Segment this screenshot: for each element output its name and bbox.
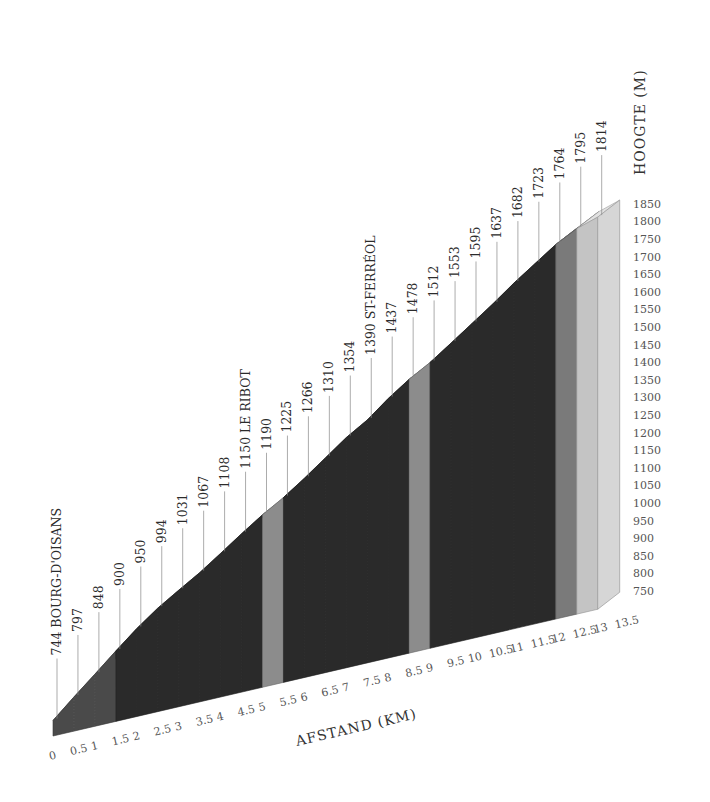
elevation-label: 1814 [594,120,609,152]
elevation-label: 1266 [300,381,315,413]
x-tick-label: 3 [173,719,183,733]
x-tick-label: 8.5 [404,663,424,680]
y-tick-label: 1150 [633,444,661,457]
elevation-label: 1354 [342,341,357,373]
x-tick-label: 13.5 [613,613,640,631]
x-tick-label: 2 [132,729,142,743]
elevation-label: 1390 ST-FERRÉOL [363,235,378,355]
y-tick-label: 1000 [633,497,661,510]
elevation-label: 994 [154,519,169,543]
elevation-label: 1031 [175,493,190,525]
y-tick-label: 1650 [633,268,661,281]
x-tick-label: 6.5 [320,683,340,700]
elevation-label: 950 [133,540,148,564]
elevation-label: 1795 [573,132,588,164]
x-tick-label: 5.5 [278,693,298,710]
x-tick-label: 3.5 [194,712,214,729]
elevation-label: 744 BOURG-D'OISANS [49,508,64,656]
end-side-face [598,200,620,609]
y-tick-label: 850 [633,550,654,563]
y-tick-label: 1700 [633,251,661,264]
elevation-label: 1637 [489,207,504,239]
x-tick-label: 1.5 [111,732,131,749]
x-axis-title: AFSTAND (KM) [293,705,418,749]
elevation-label: 1478 [405,282,420,314]
elevation-label: 1595 [468,227,483,259]
y-tick-label: 950 [633,515,654,528]
x-tick-label: 4 [215,710,225,724]
elevation-label: 1067 [196,476,211,508]
y-axis-title: HOOGTE (M) [632,69,648,175]
x-tick-label: 6 [299,690,309,704]
elevation-label: 797 [70,608,85,632]
x-tick-label: 4.5 [236,702,256,719]
elevation-label: 1764 [552,148,567,180]
elevation-label: 1150 LE RIBOT [238,369,253,469]
segment-front-face [430,244,556,648]
y-tick-label: 1450 [633,339,661,352]
y-tick-label: 800 [633,567,654,580]
elevation-label: 1682 [510,186,525,218]
x-tick-label: 1 [90,739,100,753]
x-tick-label: 9 [425,661,435,675]
y-tick-label: 1500 [633,321,661,334]
x-tick-label: 11 [509,640,526,656]
y-tick-label: 900 [633,532,654,545]
y-tick-label: 1100 [633,462,661,475]
y-tick-label: 1800 [633,215,661,228]
elevation-label: 1108 [217,457,232,489]
segment-front-face [53,651,116,736]
x-tick-label: 13 [592,620,609,636]
elevation-label: 1553 [447,246,462,278]
elevation-label: 900 [112,562,127,586]
x-tick-label: 2.5 [153,722,173,739]
x-tick-label: 8 [383,671,393,685]
x-tick-label: 7.5 [362,673,382,690]
elevation-label: 1723 [531,167,546,199]
x-tick-label: 9.5 [446,654,466,671]
segment-front-face [556,229,577,619]
y-tick-label: 1350 [633,374,661,387]
x-tick-label: 5 [257,700,267,714]
y-tick-label: 1250 [633,409,661,422]
x-tick-label: 10 [467,650,484,666]
elevation-label: 1190 [259,418,274,450]
elevation-label: 848 [91,585,106,609]
elevation-label: 1512 [426,266,441,298]
x-tick-label: 7 [341,680,351,694]
y-axis-ticks: 7508008509009501000105011001150120012501… [633,198,661,598]
elevation-label: 1310 [321,361,336,393]
profile-blocks [53,200,620,736]
y-tick-label: 1850 [633,198,661,211]
elevation-label: 1225 [279,401,294,433]
y-tick-label: 1050 [633,479,661,492]
y-tick-label: 1750 [633,233,661,246]
x-tick-label: 0 [48,749,58,763]
segment-front-face [577,217,598,614]
x-tick-label: 12 [551,630,568,646]
y-tick-label: 750 [633,585,654,598]
y-tick-label: 1550 [633,303,661,316]
elevation-label: 1437 [384,302,399,334]
y-tick-label: 1200 [633,427,661,440]
y-tick-label: 1600 [633,286,661,299]
segment-front-face [263,498,284,688]
x-tick-label: 0.5 [69,741,89,758]
y-tick-label: 1300 [633,391,661,404]
climb-profile-chart: 744 BOURG-D'OISANS7978489009509941031106… [0,0,710,802]
y-tick-label: 1400 [633,356,661,369]
segment-front-face [409,362,430,653]
